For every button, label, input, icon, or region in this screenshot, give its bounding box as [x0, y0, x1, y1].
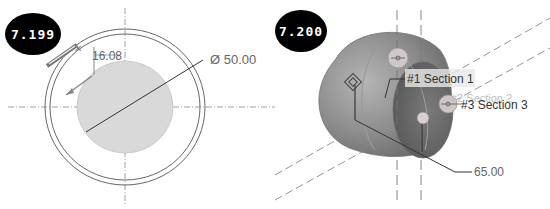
figure-7-200-panel: #1 Section 1 #2 Section 2 #3 Section 3 6… — [275, 0, 550, 209]
figure-number-badge: 7.199 — [5, 13, 61, 55]
figure-7-199-panel: Ø 50.00 16.08 ✕ 7.199 — [0, 0, 275, 209]
cross-marker-icon: ✕ — [74, 43, 82, 54]
inner-point-handle[interactable] — [417, 112, 429, 124]
diameter-dimension[interactable]: Ø 50.00 — [210, 52, 256, 67]
section-1-label[interactable]: #1 Section 1 — [407, 72, 474, 86]
figure-number-badge: 7.200 — [275, 10, 327, 52]
offset-dimension[interactable]: 16.08 — [92, 49, 122, 63]
arrow-head-icon — [66, 88, 74, 95]
section-3-label[interactable]: #3 Section 3 — [461, 98, 528, 112]
length-dimension[interactable]: 65.00 — [474, 165, 504, 179]
filled-disc[interactable] — [77, 61, 173, 153]
